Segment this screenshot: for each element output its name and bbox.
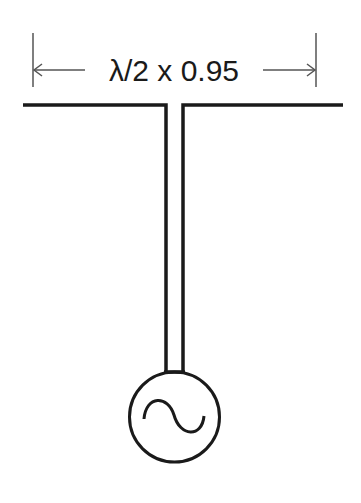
ac-source-icon [130, 372, 220, 462]
dipole-element [23, 105, 343, 372]
dipole-diagram: λ/2 x 0.95 [0, 0, 361, 503]
sine-wave-icon [144, 400, 204, 432]
dipole-left-arm [23, 105, 166, 372]
dipole-right-arm [183, 105, 343, 372]
dimension-label: λ/2 x 0.95 [109, 54, 239, 87]
